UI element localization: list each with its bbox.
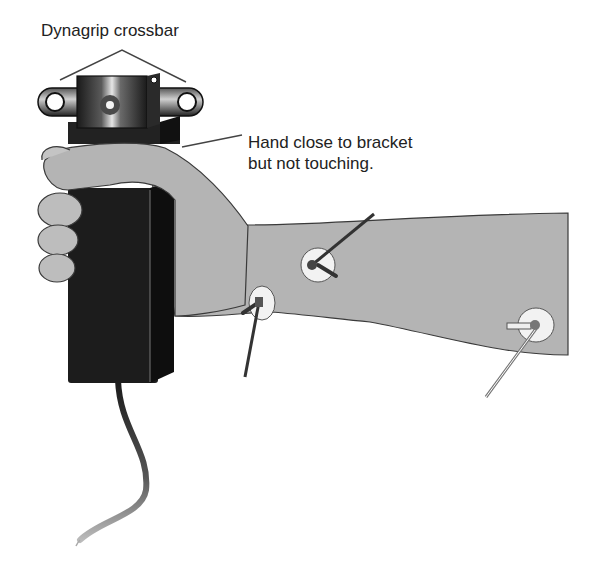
cable — [80, 380, 146, 540]
dynagrip-illustration — [0, 0, 603, 566]
hand-label-line-2: but not touching. — [248, 153, 412, 174]
hand-placement-label: Hand close to bracket but not touching. — [248, 132, 412, 174]
hand-label-line-1: Hand close to bracket — [248, 132, 412, 153]
crossbar-label: Dynagrip crossbar — [41, 20, 179, 41]
hand-leader-line — [182, 135, 242, 147]
figure-stage: Dynagrip crossbar Hand close to bracket … — [0, 0, 603, 566]
